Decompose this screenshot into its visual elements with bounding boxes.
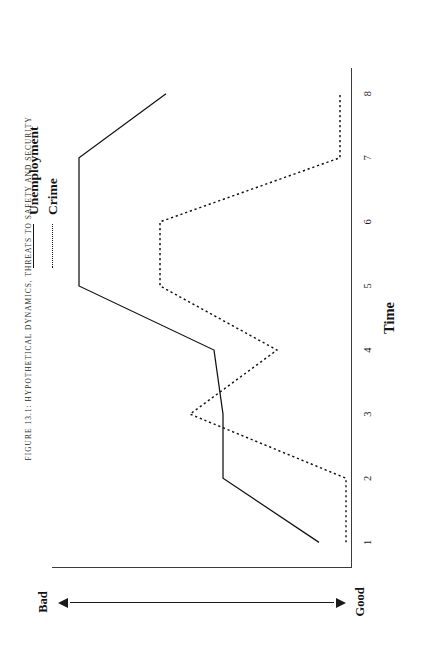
legend-item-unemployment: Unemployment <box>24 127 43 269</box>
x-tick-label: 2 <box>362 476 373 481</box>
x-tick-label: 4 <box>362 347 373 352</box>
condition-scale: Bad Good <box>52 574 352 630</box>
plot-area: 12345678 Time Bad Good Condition <box>52 68 352 568</box>
condition-label-good: Good <box>353 587 368 616</box>
x-tick-label: 8 <box>362 91 373 96</box>
x-tick-label: 6 <box>362 219 373 224</box>
legend-label-unemployment: Unemployment <box>27 127 41 216</box>
x-tick-label: 7 <box>362 155 373 160</box>
arrow-head-up-icon <box>58 599 68 609</box>
x-axis-label: Time <box>381 302 398 334</box>
line-crime <box>160 94 346 543</box>
x-tick-label: 1 <box>362 540 373 545</box>
line-unemployment <box>79 94 319 543</box>
figure-page: FIGURE 13.1: HYPOTHETICAL DYNAMICS, THRE… <box>0 0 436 660</box>
figure-body: Unemployment Crime 12345678 Time <box>18 20 418 640</box>
arrow-head-down-icon <box>336 599 346 609</box>
condition-label-bad: Bad <box>36 591 51 613</box>
legend-swatch-solid-icon <box>33 224 34 268</box>
condition-arrow-line <box>70 602 334 603</box>
x-tick-label: 5 <box>362 283 373 288</box>
x-tick-label: 3 <box>362 412 373 417</box>
series-plot <box>52 68 352 568</box>
